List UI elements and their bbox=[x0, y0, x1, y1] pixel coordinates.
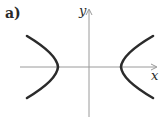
y-axis bbox=[86, 9, 92, 117]
hyperbola-diagram bbox=[0, 0, 164, 118]
